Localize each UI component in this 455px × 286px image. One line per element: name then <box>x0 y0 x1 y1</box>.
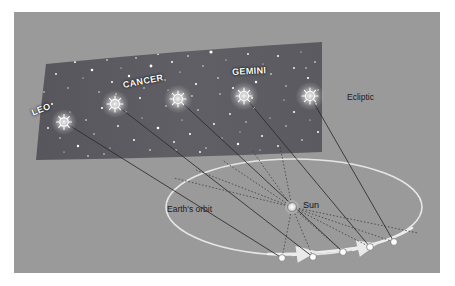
earth-position-3 <box>340 249 347 256</box>
earth-position-4 <box>367 244 374 251</box>
sun-disc <box>287 202 296 211</box>
earth-position-2 <box>310 254 317 261</box>
diagram-svg <box>0 0 455 286</box>
earth-position-5 <box>391 239 398 246</box>
marker-constellation-4 <box>230 82 259 111</box>
marker-gemini <box>164 85 193 114</box>
earth-position-1 <box>279 255 286 262</box>
sun-marker <box>285 200 299 214</box>
figure-canvas: LEO CANCER GEMINI Ecliptic Sun Earth's o… <box>0 0 455 286</box>
marker-constellation-5 <box>296 82 325 111</box>
marker-cancer <box>101 90 129 118</box>
marker-leo <box>51 109 77 135</box>
